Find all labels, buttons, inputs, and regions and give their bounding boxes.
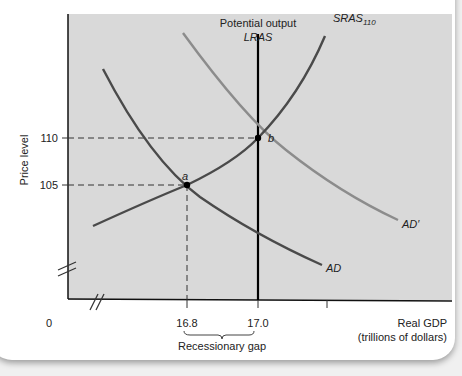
lras-title-label: Potential output (220, 17, 296, 29)
y-axis-label: Price level (18, 135, 30, 186)
point-a-label: a (182, 170, 188, 182)
ad-as-chart: Potential output LRAS SRAS110 AD′ AD a b… (0, 0, 462, 376)
gap-brace (184, 331, 254, 339)
point-b-label: b (268, 132, 274, 144)
lras-label: LRAS (244, 31, 273, 43)
point-a (184, 182, 190, 188)
plot-area (68, 14, 452, 300)
x-tick-label-17-0: 17.0 (247, 317, 268, 329)
recessionary-gap-label: Recessionary gap (178, 340, 266, 352)
ad-prime-label: AD′ (401, 218, 420, 230)
ad-label: AD (325, 262, 341, 274)
origin-label: 0 (46, 317, 52, 329)
x-axis-label-line1: Real GDP (397, 317, 447, 329)
x-tick-label-16-8: 16.8 (176, 317, 197, 329)
y-tick-label-105: 105 (40, 179, 58, 191)
x-axis-label-line2: (trillions of dollars) (358, 331, 447, 343)
y-tick-label-110: 110 (40, 132, 58, 144)
point-b (255, 135, 261, 141)
